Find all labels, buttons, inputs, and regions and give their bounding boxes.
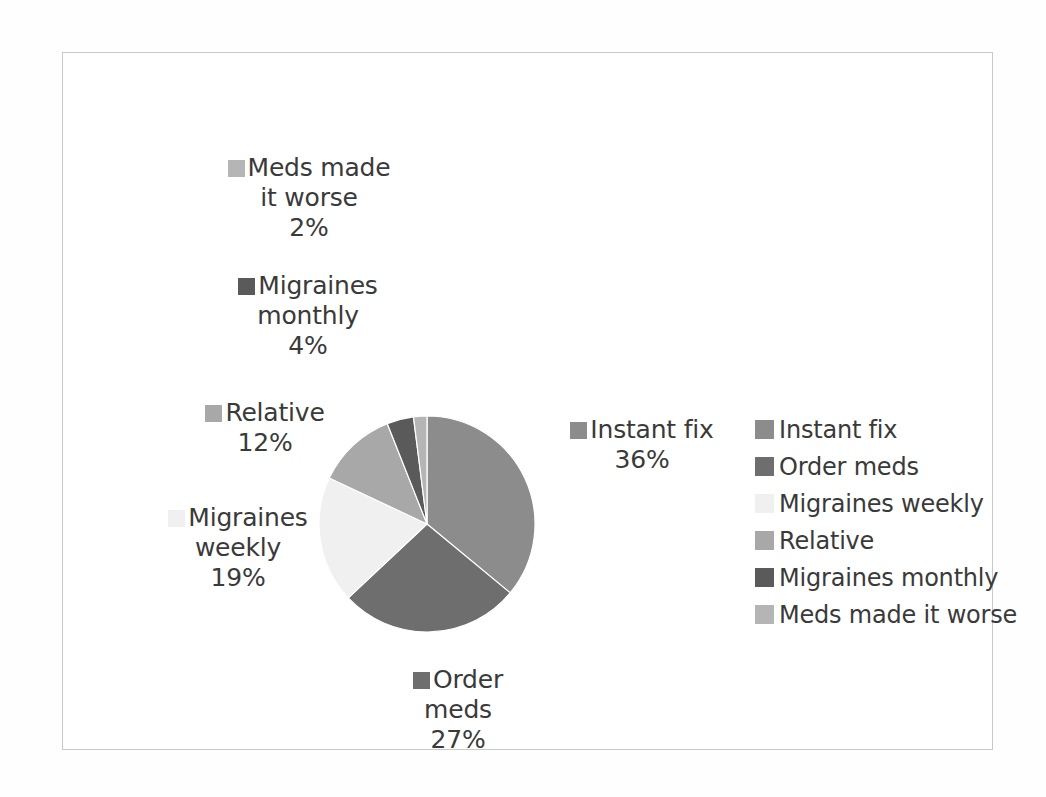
pie-label-value-meds-made-it-worse: 2%	[209, 213, 409, 243]
pie-label-value-migraines-weekly: 19%	[143, 563, 333, 593]
pie-label-text-line1-migraines-monthly: Migraines	[258, 271, 377, 300]
pie-label-migraines-weekly: Migraines weekly 19%	[143, 503, 333, 593]
pie-label-swatch-instant-fix	[570, 422, 587, 439]
legend-swatch-relative	[755, 531, 774, 550]
pie-label-order-meds: Order meds 27%	[363, 665, 553, 755]
pie-label-text-line1-order-meds: Order	[433, 665, 503, 694]
pie-label-swatch-order-meds	[413, 672, 430, 689]
legend-swatch-migraines-weekly	[755, 494, 774, 513]
pie-label-swatch-meds-made-it-worse	[228, 160, 245, 177]
pie-label-text-line2-migraines-monthly: monthly	[208, 301, 408, 331]
legend-label-order-meds: Order meds	[779, 453, 919, 481]
legend-item-order-meds[interactable]: Order meds	[755, 448, 1045, 485]
pie-label-text-line1-instant-fix: Instant fix	[590, 415, 713, 444]
pie-label-text-line1-migraines-weekly: Migraines	[188, 503, 307, 532]
legend-swatch-migraines-monthly	[755, 568, 774, 587]
pie-label-swatch-migraines-weekly	[168, 510, 185, 527]
screenshot-canvas: Meds made it worse 2% Migraines monthly …	[0, 0, 1046, 797]
legend-swatch-meds-made-it-worse	[755, 605, 774, 624]
pie-label-text-line2-migraines-weekly: weekly	[143, 533, 333, 563]
legend-label-migraines-weekly: Migraines weekly	[779, 490, 984, 518]
pie-label-relative: Relative 12%	[170, 398, 360, 458]
legend-item-migraines-monthly[interactable]: Migraines monthly	[755, 559, 1045, 596]
legend-swatch-instant-fix	[755, 420, 774, 439]
pie-label-swatch-relative	[205, 405, 222, 422]
pie-label-text-line2-meds-made-it-worse: it worse	[209, 183, 409, 213]
legend-item-migraines-weekly[interactable]: Migraines weekly	[755, 485, 1045, 522]
pie-label-value-instant-fix: 36%	[537, 445, 747, 475]
legend-label-relative: Relative	[779, 527, 874, 555]
legend-label-instant-fix: Instant fix	[779, 416, 897, 444]
pie-label-value-relative: 12%	[170, 428, 360, 458]
chart-frame: Meds made it worse 2% Migraines monthly …	[62, 52, 993, 750]
pie-label-text-line1-relative: Relative	[225, 398, 324, 427]
pie-label-meds-made-it-worse: Meds made it worse 2%	[209, 153, 409, 243]
legend-swatch-order-meds	[755, 457, 774, 476]
legend-item-relative[interactable]: Relative	[755, 522, 1045, 559]
pie-label-swatch-migraines-monthly	[238, 278, 255, 295]
pie-label-value-order-meds: 27%	[363, 725, 553, 755]
legend-item-meds-made-it-worse[interactable]: Meds made it worse	[755, 596, 1045, 633]
pie-label-text-line1-meds-made-it-worse: Meds made	[248, 153, 391, 182]
pie-label-value-migraines-monthly: 4%	[208, 331, 408, 361]
pie-label-instant-fix: Instant fix 36%	[537, 415, 747, 475]
legend-item-instant-fix[interactable]: Instant fix	[755, 411, 1045, 448]
legend-label-meds-made-it-worse: Meds made it worse	[779, 601, 1017, 629]
pie-label-text-line2-order-meds: meds	[363, 695, 553, 725]
chart-legend: Instant fixOrder medsMigraines weeklyRel…	[755, 411, 1045, 633]
pie-label-migraines-monthly: Migraines monthly 4%	[208, 271, 408, 361]
legend-label-migraines-monthly: Migraines monthly	[779, 564, 998, 592]
